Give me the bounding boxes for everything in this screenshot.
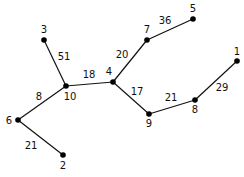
node-5 xyxy=(190,16,196,22)
edge-10-4 xyxy=(66,82,113,86)
tree-diagram: 5118821203617212912345678910 xyxy=(0,0,244,177)
edge-weight: 51 xyxy=(58,51,71,62)
node-9 xyxy=(146,111,152,117)
labels-layer: 5118821203617212912345678910 xyxy=(6,3,240,171)
node-8 xyxy=(192,97,198,103)
edge-weight: 21 xyxy=(165,92,178,103)
node-3 xyxy=(41,37,47,43)
node-10 xyxy=(63,83,69,89)
edge-weight: 29 xyxy=(216,82,229,93)
node-label: 6 xyxy=(6,115,12,126)
nodes-layer xyxy=(15,16,240,158)
node-label: 1 xyxy=(234,46,240,57)
edge-weight: 21 xyxy=(25,140,38,151)
node-7 xyxy=(144,37,150,43)
edge-weight: 18 xyxy=(83,69,96,80)
edge-8-1 xyxy=(195,61,237,100)
node-2 xyxy=(60,152,66,158)
edge-weight: 20 xyxy=(116,49,129,60)
node-4 xyxy=(110,79,116,85)
node-6 xyxy=(15,117,21,123)
node-label: 2 xyxy=(60,160,66,171)
edge-4-7 xyxy=(113,40,147,82)
node-label: 7 xyxy=(144,24,150,35)
edge-3-10 xyxy=(44,40,66,86)
node-label: 5 xyxy=(190,3,196,14)
edge-weight: 17 xyxy=(131,86,144,97)
diagram-svg: 5118821203617212912345678910 xyxy=(0,0,244,177)
node-label: 10 xyxy=(64,91,77,102)
node-label: 4 xyxy=(106,66,112,77)
node-1 xyxy=(234,58,240,64)
node-label: 9 xyxy=(146,118,152,129)
node-label: 3 xyxy=(41,24,47,35)
edges-layer xyxy=(18,19,237,155)
node-label: 8 xyxy=(192,104,198,115)
edge-weight: 8 xyxy=(36,91,42,102)
edge-weight: 36 xyxy=(159,15,172,26)
